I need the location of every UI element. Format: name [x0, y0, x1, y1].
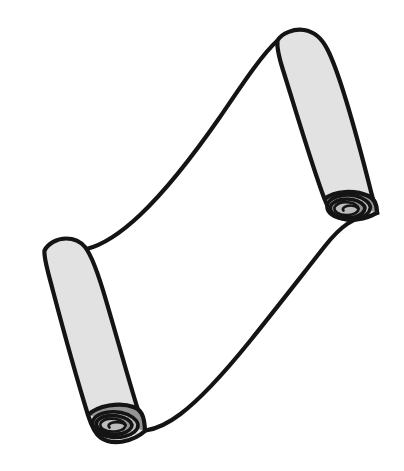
canvas-background	[0, 0, 404, 471]
upper-right-spiral-inner	[334, 202, 358, 215]
illustration-canvas: Rolled sheet illustration Line drawing o…	[0, 0, 404, 471]
rolled-sheet-drawing	[0, 0, 404, 471]
lower-left-spiral-inner	[100, 419, 125, 432]
